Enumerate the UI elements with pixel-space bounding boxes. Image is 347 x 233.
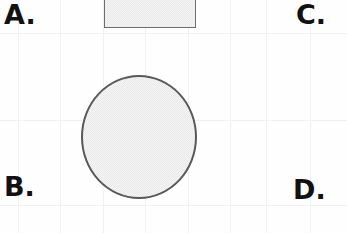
grid-line-vertical: [230, 0, 231, 233]
choice-label-b[interactable]: B.: [4, 173, 35, 200]
grid-line-vertical: [60, 0, 61, 233]
choice-label-d[interactable]: D.: [293, 176, 326, 203]
rectangle-shape: [104, 0, 196, 28]
worksheet-page: A. C. B. D.: [0, 0, 347, 233]
circle-shape: [81, 75, 197, 199]
grid-line-horizontal: [0, 33, 347, 34]
grid-line-vertical: [266, 0, 267, 233]
choice-label-c[interactable]: C.: [296, 1, 326, 28]
choice-label-a[interactable]: A.: [4, 1, 36, 28]
grid-line-horizontal: [0, 205, 347, 206]
